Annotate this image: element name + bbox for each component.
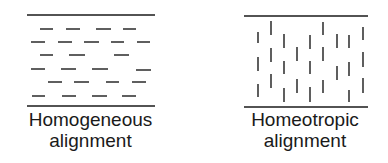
homeotropic-caption: Homeotropic alignment bbox=[230, 109, 380, 151]
caption-line-2: alignment bbox=[230, 130, 380, 151]
caption-line-1: Homeotropic bbox=[230, 109, 380, 130]
homeotropic-panel: Homeotropic alignment bbox=[0, 0, 388, 163]
